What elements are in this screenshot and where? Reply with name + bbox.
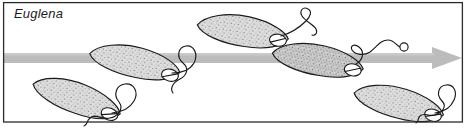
organism-label: Euglena bbox=[14, 6, 63, 21]
euglena-illustration-canvas bbox=[0, 0, 464, 129]
euglena-figure: Euglena bbox=[0, 0, 464, 129]
arrow-shaft-highlight bbox=[4, 53, 434, 55]
